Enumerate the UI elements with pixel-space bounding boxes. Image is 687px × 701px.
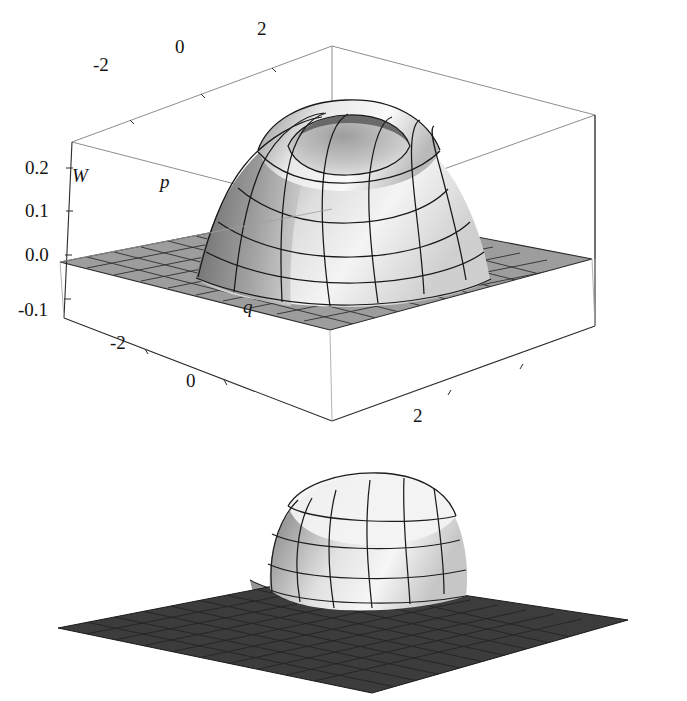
q-tick-0: 0 (186, 371, 196, 390)
q-tick-neg-2: -2 (110, 333, 126, 352)
wigner-surface-bottom (268, 473, 467, 611)
z-tick-0.1: 0.1 (25, 201, 49, 220)
z-axis-label: W (72, 166, 88, 185)
bottom-surface-panel (0, 450, 687, 701)
z-tick-0.2: 0.2 (25, 158, 49, 177)
q-tick-2: 2 (413, 406, 423, 425)
top-surface-panel: 0.2 0.1 0.0 -0.1 -2 0 2 -2 0 2 W p q (0, 0, 687, 450)
p-tick-2: 2 (257, 19, 267, 38)
p-tick-neg-2: -2 (93, 55, 109, 74)
bottom-panel-graphic (0, 450, 687, 701)
z-tick-0.0: 0.0 (25, 245, 49, 264)
z-tick-neg-0.1: -0.1 (18, 300, 48, 319)
wigner-function-figure: 0.2 0.1 0.0 -0.1 -2 0 2 -2 0 2 W p q (0, 0, 687, 701)
p-tick-0: 0 (175, 37, 185, 56)
q-axis-label: q (243, 297, 253, 316)
p-axis-label: p (160, 172, 170, 191)
wigner-surface-top (196, 100, 491, 307)
